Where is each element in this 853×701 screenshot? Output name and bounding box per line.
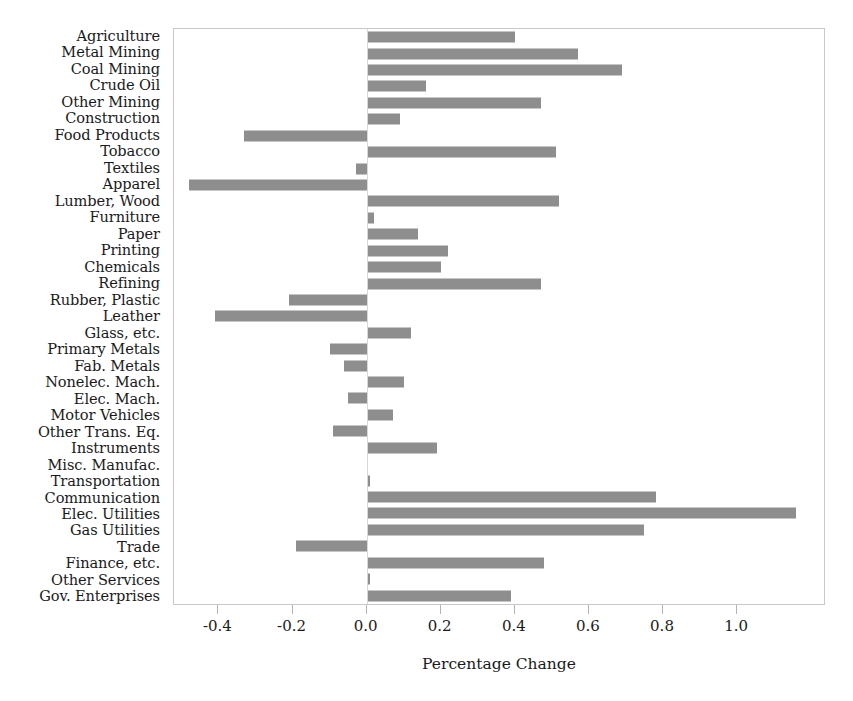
bar-row	[174, 275, 824, 291]
bar	[367, 48, 578, 59]
bar-row	[174, 95, 824, 111]
bar	[333, 426, 366, 437]
category-axis-labels: AgricultureMetal MiningCoal MiningCrude …	[0, 28, 166, 605]
bar-row	[174, 210, 824, 226]
category-label: Paper	[0, 226, 166, 242]
category-label: Construction	[0, 110, 166, 126]
category-label: Printing	[0, 242, 166, 258]
x-axis-tick	[588, 605, 589, 614]
bar	[244, 130, 366, 141]
bar	[367, 557, 545, 568]
category-label: Misc. Manufac.	[0, 457, 166, 473]
bar-row	[174, 29, 824, 45]
category-label: Chemicals	[0, 259, 166, 275]
category-label: Primary Metals	[0, 341, 166, 357]
category-label: Gas Utilities	[0, 523, 166, 539]
plot-area	[173, 28, 825, 605]
bar	[367, 590, 511, 601]
category-label: Agriculture	[0, 28, 166, 44]
bar	[289, 294, 367, 305]
bar-row	[174, 555, 824, 571]
x-axis-tick-label: -0.2	[277, 617, 306, 635]
bar-row	[174, 489, 824, 505]
bar-row	[174, 390, 824, 406]
x-axis-tick-label: -0.4	[203, 617, 232, 635]
category-label: Refining	[0, 275, 166, 291]
bar	[367, 196, 560, 207]
bar	[367, 65, 623, 76]
category-label: Glass, etc.	[0, 325, 166, 341]
category-label: Motor Vehicles	[0, 407, 166, 423]
bar-row	[174, 587, 824, 603]
category-label: Trade	[0, 539, 166, 555]
bar	[367, 32, 515, 43]
bar-row	[174, 538, 824, 554]
bar-row	[174, 62, 824, 78]
bar-row	[174, 259, 824, 275]
bar-row	[174, 160, 824, 176]
bar-row	[174, 111, 824, 127]
bar-row	[174, 472, 824, 488]
bar	[344, 360, 366, 371]
bar	[367, 442, 437, 453]
category-label: Instruments	[0, 440, 166, 456]
bar	[367, 409, 393, 420]
category-label: Apparel	[0, 176, 166, 192]
category-label: Textiles	[0, 160, 166, 176]
x-axis-tick-label: 0.6	[576, 617, 600, 635]
category-label: Leather	[0, 308, 166, 324]
bar-row	[174, 374, 824, 390]
bar-row	[174, 522, 824, 538]
category-label: Other Services	[0, 572, 166, 588]
percentage-change-bar-chart: AgricultureMetal MiningCoal MiningCrude …	[0, 0, 853, 701]
category-label: Other Trans. Eq.	[0, 424, 166, 440]
x-axis-tick	[736, 605, 737, 614]
category-label: Elec. Utilities	[0, 506, 166, 522]
zero-reference-line	[367, 29, 368, 604]
x-axis-tick	[217, 605, 218, 614]
category-label: Gov. Enterprises	[0, 588, 166, 604]
category-label: Furniture	[0, 209, 166, 225]
category-label: Coal Mining	[0, 61, 166, 77]
x-axis-tick-label: 1.0	[724, 617, 748, 635]
bar-row	[174, 407, 824, 423]
category-label: Metal Mining	[0, 44, 166, 60]
category-label: Rubber, Plastic	[0, 292, 166, 308]
bar	[367, 377, 404, 388]
bar-row	[174, 242, 824, 258]
bar-row	[174, 357, 824, 373]
bar-row	[174, 292, 824, 308]
x-axis-tick-label: 0.2	[428, 617, 452, 635]
bar-row	[174, 193, 824, 209]
x-axis-tick-label: 0.8	[650, 617, 674, 635]
bar	[367, 81, 426, 92]
category-label: Nonelec. Mach.	[0, 374, 166, 390]
bar	[367, 97, 541, 108]
x-axis-tick	[292, 605, 293, 614]
bar	[367, 245, 449, 256]
category-label: Fab. Metals	[0, 358, 166, 374]
category-label: Other Mining	[0, 94, 166, 110]
category-label: Finance, etc.	[0, 556, 166, 572]
bar-row	[174, 128, 824, 144]
bar	[367, 327, 411, 338]
bar	[367, 212, 374, 223]
x-axis-tick	[662, 605, 663, 614]
bar-row	[174, 226, 824, 242]
bars-container	[174, 29, 824, 604]
bar	[367, 262, 441, 273]
bar	[330, 344, 367, 355]
bar	[367, 508, 797, 519]
bar-row	[174, 571, 824, 587]
bar-row	[174, 423, 824, 439]
bar-row	[174, 505, 824, 521]
x-axis-tick	[440, 605, 441, 614]
category-label: Communication	[0, 490, 166, 506]
category-label: Transportation	[0, 473, 166, 489]
bar	[348, 393, 367, 404]
bar-row	[174, 144, 824, 160]
bar-row	[174, 45, 824, 61]
x-axis-tick	[366, 605, 367, 614]
bar	[356, 163, 367, 174]
bar	[215, 311, 367, 322]
